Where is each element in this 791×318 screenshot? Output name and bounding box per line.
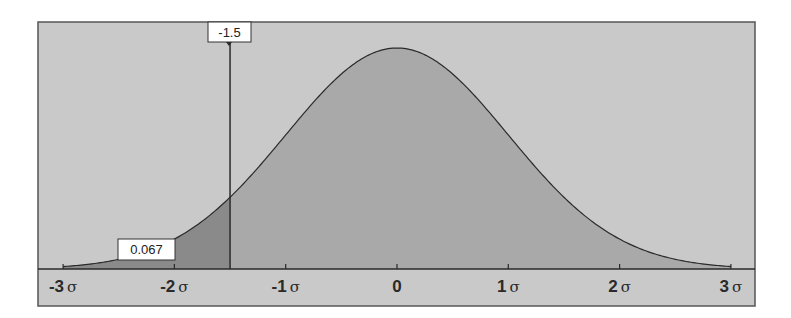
tail-area-label-text: 0.067 xyxy=(130,242,163,257)
x-tick-label: -2σ xyxy=(160,277,188,296)
tail-area-label: 0.067 xyxy=(118,239,175,260)
marker-label[interactable]: -1.5 xyxy=(208,22,251,42)
x-tick-label: -1σ xyxy=(272,277,300,296)
normal-distribution-chart: -3σ-2σ-1σ01σ2σ3σ -1.5 0.067 xyxy=(0,0,791,318)
x-tick-label: 0 xyxy=(392,277,401,296)
marker-label-text: -1.5 xyxy=(218,25,240,40)
x-tick-label: -3σ xyxy=(49,277,77,296)
